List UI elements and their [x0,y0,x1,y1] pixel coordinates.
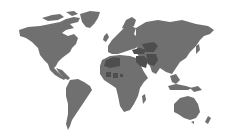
highlight-sahel-central[interactable] [113,73,118,78]
region-new-zealand[interactable] [205,116,211,124]
region-south-america[interactable] [66,79,92,130]
region-madagascar [142,94,146,104]
world-map [0,0,233,140]
region-indonesia[interactable] [168,84,192,90]
region-uk [103,33,109,42]
region-tasmania [191,121,194,124]
region-north-america[interactable] [19,17,80,80]
region-greenland[interactable] [80,11,100,28]
region-australia[interactable] [174,96,200,120]
region-southeast-asia [170,74,180,84]
highlight-sahel-east[interactable] [120,74,123,77]
region-japan [196,44,200,54]
region-new-guinea [190,86,202,92]
region-canadian-islands [42,14,64,21]
region-canadian-islands-2 [66,11,78,16]
highlight-sahel-west[interactable] [106,72,111,77]
